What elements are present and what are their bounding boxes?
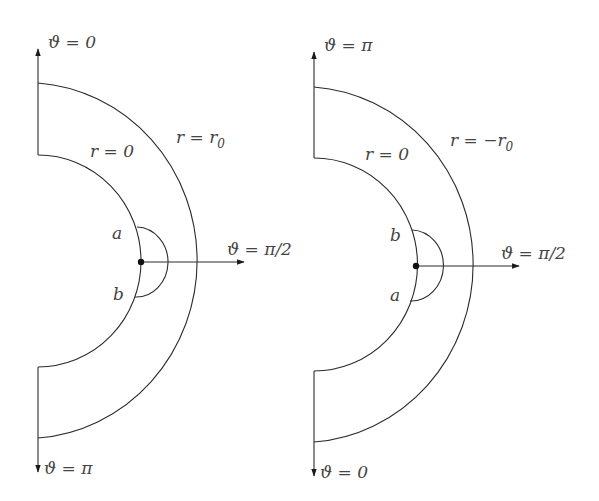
axis-right-label: ϑ = π/2: [501, 243, 566, 263]
axis-top-label: ϑ = 0: [48, 32, 96, 52]
outer-arc-label: r = −r0: [450, 130, 514, 154]
outer-arc: [38, 83, 197, 438]
point-b-label: b: [390, 225, 401, 245]
inner-arc-label: r = 0: [365, 144, 409, 164]
axis-bottom-label: ϑ = 0: [320, 462, 368, 482]
inner-arc-label: r = 0: [90, 141, 134, 161]
point-a-label: a: [390, 285, 400, 305]
point-a-label: a: [112, 223, 122, 243]
left-diagram: ϑ = 0 a a b r = 0 r = r0 ϑ = π/2 ϑ = π: [38, 32, 292, 478]
origin-point: [138, 259, 144, 265]
inner-arc: [314, 158, 417, 371]
axis-right-label: ϑ = π/2: [227, 239, 292, 259]
right-diagram: ϑ = π b a r = 0 r = −r0 ϑ = π/2 ϑ = 0: [314, 35, 566, 482]
outer-arc-label: r = r0: [176, 127, 225, 151]
point-b-label: b: [113, 284, 124, 304]
origin-point: [413, 263, 419, 269]
axis-top-label: ϑ = π: [324, 35, 373, 55]
axis-bottom-label: ϑ = π: [44, 458, 93, 478]
diagram-canvas: ϑ = 0 a a b r = 0 r = r0 ϑ = π/2 ϑ = π ϑ…: [0, 0, 599, 501]
inner-arc: [38, 155, 141, 367]
